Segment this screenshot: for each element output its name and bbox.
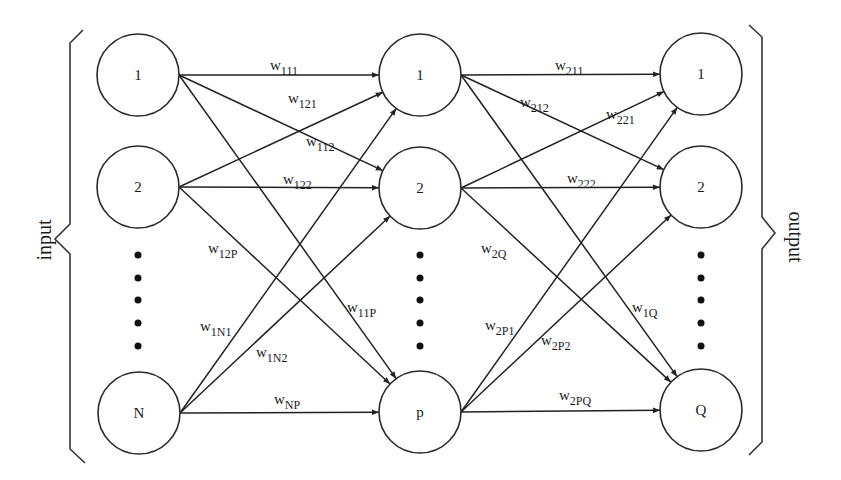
- output-ellipsis-dot: [698, 343, 705, 350]
- input-node-2: 2: [97, 146, 179, 228]
- node-label: 2: [134, 179, 142, 195]
- edge-in2-h2: [179, 187, 379, 188]
- neural-network-diagram: input output w111w121w112w122w12Pw11Pw1N…: [0, 0, 841, 480]
- node-label: p: [416, 404, 424, 420]
- weight-label: w121: [288, 90, 317, 111]
- hidden-node-p: p: [379, 371, 461, 453]
- weight-label: wNP: [274, 391, 301, 412]
- diagram-svg: input output w111w121w112w122w12Pw11Pw1N…: [0, 0, 841, 480]
- hidden-ellipsis-dot: [417, 320, 424, 327]
- input-ellipsis-dot: [135, 297, 142, 304]
- node-label: 2: [416, 180, 424, 196]
- node-label: N: [134, 405, 145, 421]
- node-label: 2: [697, 179, 705, 195]
- output-ellipsis-dot: [698, 320, 705, 327]
- weight-label: w2PQ: [559, 387, 592, 408]
- input-ellipsis-dot: [135, 275, 142, 282]
- hidden-ellipsis-dot: [417, 343, 424, 350]
- input-node-N: N: [98, 372, 180, 454]
- node-label: 1: [697, 66, 705, 82]
- hidden-ellipsis-dot: [417, 252, 424, 259]
- edge-in1-h2: [179, 75, 383, 171]
- node-label: Q: [696, 402, 707, 418]
- output-node-2: 2: [660, 146, 742, 228]
- weight-label: w2P2: [541, 332, 571, 353]
- input-ellipsis-dot: [135, 252, 142, 259]
- input-ellipsis-dot: [135, 343, 142, 350]
- edge-h2-o1: [461, 92, 664, 188]
- weight-label: w1N1: [200, 318, 232, 339]
- edge-hp-oQ: [461, 410, 660, 412]
- weight-label: w1N2: [256, 344, 288, 365]
- hidden-ellipsis-dot: [417, 297, 424, 304]
- input-node-1: 1: [97, 34, 179, 116]
- edge-inN-hp: [180, 412, 379, 413]
- output-node-1: 1: [660, 33, 742, 115]
- node-label: 1: [134, 67, 142, 83]
- output-ellipsis-dot: [698, 275, 705, 282]
- edge-in2-h1: [179, 92, 383, 187]
- output-side-label: output: [784, 211, 807, 263]
- hidden-node-1: 1: [379, 34, 461, 116]
- hidden-node-2: 2: [379, 147, 461, 229]
- weight-label: w212: [520, 94, 549, 115]
- input-brace: [55, 30, 85, 463]
- output-ellipsis-dot: [698, 297, 705, 304]
- weight-label: w1Q: [632, 299, 658, 320]
- weight-label: w112: [306, 133, 334, 154]
- edge-inN-h1: [180, 108, 396, 413]
- weight-label: w221: [606, 106, 635, 127]
- output-ellipsis-dot: [698, 252, 705, 259]
- edge-h2-oQ: [461, 188, 671, 382]
- input-side-label: input: [33, 219, 56, 261]
- weight-label: w122: [283, 171, 312, 192]
- edges-group: [179, 74, 677, 413]
- node-label: 1: [416, 67, 424, 83]
- output-node-Q: Q: [660, 369, 742, 451]
- edge-h2-o2: [461, 187, 660, 188]
- input-ellipsis-dot: [135, 320, 142, 327]
- output-brace: [749, 25, 775, 455]
- weight-label: w12P: [208, 240, 238, 261]
- weight-label: w2Q: [481, 240, 507, 261]
- edge-h1-o1: [461, 74, 660, 75]
- hidden-ellipsis-dot: [417, 275, 424, 282]
- weight-label: w2P1: [485, 317, 515, 338]
